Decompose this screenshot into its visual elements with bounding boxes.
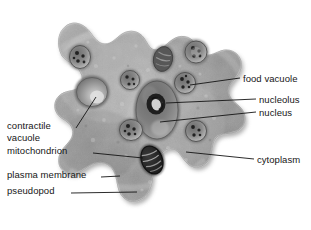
label-cytoplasm-text: cytoplasm <box>257 154 300 165</box>
label-nucleolus: nucleolus <box>259 94 300 106</box>
food-vacuole-2 <box>119 69 141 91</box>
food-vacuole-1 <box>68 44 92 70</box>
food-vacuole-5 <box>173 71 197 95</box>
label-nucleus: nucleus <box>259 107 292 119</box>
label-mitochondrion: mitochondrion <box>7 145 67 157</box>
label-pseudopod-text: pseudopod <box>7 185 54 196</box>
food-vacuole-7 <box>184 119 208 143</box>
label-cytoplasm: cytoplasm <box>257 154 300 166</box>
label-plasma-membrane-text: plasma membrane <box>7 169 86 180</box>
label-nucleus-text: nucleus <box>259 107 292 118</box>
food-vacuole-4 <box>183 39 209 65</box>
label-pseudopod: pseudopod <box>7 185 54 197</box>
nucleolus <box>147 94 166 115</box>
label-nucleolus-text: nucleolus <box>259 94 300 105</box>
label-plasma-membrane: plasma membrane <box>7 169 86 181</box>
label-contractile-vacuole-line2: vacuole <box>7 132 51 144</box>
amoeba-figure: food vacuole nucleolus nucleus cytoplasm… <box>0 0 311 230</box>
label-food-vacuole-text: food vacuole <box>243 73 297 84</box>
label-contractile-vacuole: contractile vacuole <box>7 120 51 143</box>
label-food-vacuole: food vacuole <box>243 73 297 85</box>
food-vacuole-6 <box>118 118 144 142</box>
label-contractile-vacuole-line1: contractile <box>7 120 51 132</box>
label-mitochondrion-text: mitochondrion <box>7 145 67 156</box>
